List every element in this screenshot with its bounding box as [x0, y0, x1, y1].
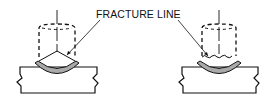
right-figure	[178, 10, 259, 93]
right-wavy-fracture	[202, 55, 232, 58]
left-figure	[17, 10, 100, 93]
fracture-line-label: FRACTURE LINE	[96, 8, 181, 20]
